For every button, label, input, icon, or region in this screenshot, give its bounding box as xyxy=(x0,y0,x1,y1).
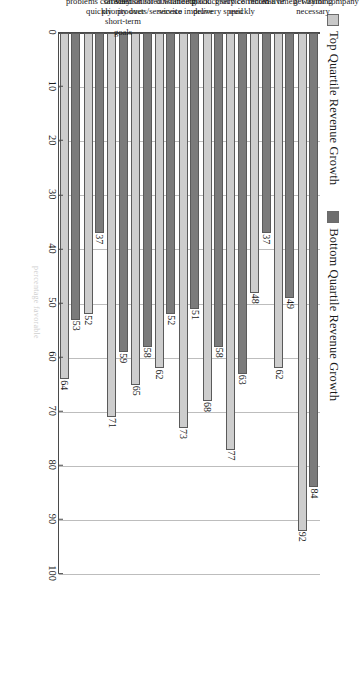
bar-top: 68 xyxy=(203,33,212,401)
bar-group: 5173 xyxy=(177,33,201,573)
bar-top: 64 xyxy=(60,33,69,379)
bar-bottom: 58 xyxy=(143,33,152,347)
tick-mark xyxy=(58,303,63,304)
bar-group: 3752 xyxy=(82,33,106,573)
bar-top: 48 xyxy=(250,33,259,293)
tick-mark xyxy=(58,248,63,249)
value-tick-10: 10 xyxy=(47,81,58,92)
bar-group: 5865 xyxy=(129,33,153,573)
value-tick-20: 20 xyxy=(47,135,58,146)
bar-value-label: 64 xyxy=(59,380,70,390)
bar-bottom: 58 xyxy=(214,33,223,347)
bar-value-label: 37 xyxy=(261,234,272,244)
bar-value-label: 73 xyxy=(178,429,189,439)
chart-legend: Top Quartile Revenue Growth Bottom Quart… xyxy=(326,14,341,401)
value-axis-ticks: 0102030405060708090100 xyxy=(42,32,58,573)
bar-bottom: 52 xyxy=(166,33,175,314)
bar-top: 77 xyxy=(226,33,235,450)
bar-top: 52 xyxy=(84,33,93,314)
plot-area: 5364375259715865526251735868637737484962… xyxy=(58,32,320,573)
bar-value-label: 37 xyxy=(94,234,105,244)
bar-value-label: 52 xyxy=(83,315,94,325)
bar-bottom: 59 xyxy=(119,33,128,352)
legend-item-top-quartile: Top Quartile Revenue Growth xyxy=(326,14,341,185)
tick-mark xyxy=(58,194,63,195)
bar-bottom: 37 xyxy=(95,33,104,233)
bar-bottom: 37 xyxy=(262,33,271,233)
legend-label-top-quartile: Top Quartile Revenue Growth xyxy=(326,31,341,185)
bar-value-label: 62 xyxy=(154,369,165,379)
bar-bottom: 49 xyxy=(285,33,294,298)
bar-group: 5262 xyxy=(153,33,177,573)
value-tick-90: 90 xyxy=(47,514,58,525)
value-tick-40: 40 xyxy=(47,243,58,254)
value-axis-title: percentage favorable xyxy=(32,32,41,573)
tick-mark xyxy=(58,32,63,33)
bar-value-label: 51 xyxy=(189,310,200,320)
tick-mark xyxy=(58,465,63,466)
legend-swatch-bottom-quartile xyxy=(328,211,340,223)
legend-label-bottom-quartile: Bottom Quartile Revenue Growth xyxy=(326,228,341,401)
tick-mark xyxy=(58,411,63,412)
bar-value-label: 48 xyxy=(249,294,260,304)
bar-value-label: 77 xyxy=(225,451,236,461)
value-tick-80: 80 xyxy=(47,460,58,471)
bar-value-label: 65 xyxy=(130,386,141,396)
bar-top: 62 xyxy=(274,33,283,368)
bar-top: 73 xyxy=(179,33,188,428)
bar-value-label: 62 xyxy=(273,369,284,379)
tick-mark xyxy=(58,519,63,520)
tick-mark xyxy=(58,86,63,87)
bar-value-label: 58 xyxy=(213,348,224,358)
bar-bottom: 84 xyxy=(309,33,318,487)
bar-group: 6377 xyxy=(225,33,249,573)
bar-bottom: 63 xyxy=(238,33,247,374)
value-tick-60: 60 xyxy=(47,351,58,362)
bar-group: 4962 xyxy=(272,33,296,573)
category-label: Proud to workfor company xyxy=(300,0,364,6)
bar-group: 8492 xyxy=(296,33,320,573)
bar-top: 62 xyxy=(155,33,164,368)
value-tick-70: 70 xyxy=(47,405,58,416)
bar-bottom: 53 xyxy=(71,33,80,320)
bar-value-label: 58 xyxy=(142,348,153,358)
bar-value-label: 63 xyxy=(237,375,248,385)
bar-value-label: 92 xyxy=(297,532,308,542)
bar-group: 3748 xyxy=(249,33,273,573)
legend-item-bottom-quartile: Bottom Quartile Revenue Growth xyxy=(326,211,341,401)
bar-group: 5868 xyxy=(201,33,225,573)
tick-mark xyxy=(58,573,63,574)
tick-mark xyxy=(58,140,63,141)
value-tick-50: 50 xyxy=(47,297,58,308)
bar-top: 65 xyxy=(131,33,140,385)
bar-value-label: 84 xyxy=(308,488,319,498)
bar-top: 92 xyxy=(298,33,307,531)
bar-value-label: 53 xyxy=(70,321,81,331)
bar-value-label: 71 xyxy=(106,418,117,428)
bar-value-label: 49 xyxy=(284,299,295,309)
plot-inner: 5364375259715865526251735868637737484962… xyxy=(58,32,320,573)
bar-value-label: 68 xyxy=(202,402,213,412)
bar-value-label: 52 xyxy=(165,315,176,325)
bar-top: 71 xyxy=(107,33,116,417)
gridline-100 xyxy=(59,574,320,575)
bar-value-label: 59 xyxy=(118,353,129,363)
value-tick-30: 30 xyxy=(47,189,58,200)
bar-group: 5971 xyxy=(106,33,130,573)
bar-bottom: 51 xyxy=(190,33,199,309)
value-tick-0: 0 xyxy=(47,29,58,34)
tick-mark xyxy=(58,357,63,358)
value-tick-100: 100 xyxy=(47,565,58,581)
